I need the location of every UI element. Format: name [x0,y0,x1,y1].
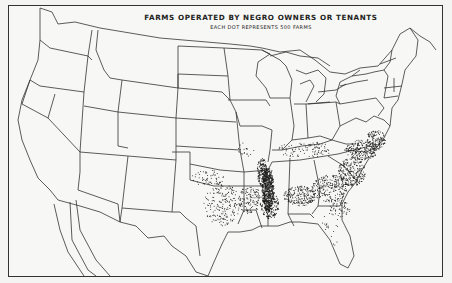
map-title: FARMS OPERATED BY NEGRO OWNERS OR TENANT… [35,13,452,22]
us-map [0,0,452,283]
map-subtitle: EACH DOT REPRESENTS 500 FARMS [35,24,452,30]
us-outline [18,8,418,276]
state-borders [18,8,436,276]
